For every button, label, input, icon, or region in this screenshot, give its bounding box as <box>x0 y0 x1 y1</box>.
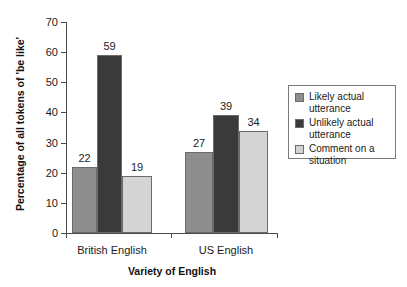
bar <box>213 115 239 233</box>
bar <box>97 55 122 233</box>
y-tick-label: 40 <box>20 107 58 118</box>
y-tick-label: 0 <box>20 228 58 239</box>
legend-item: Comment on a situation <box>295 143 391 166</box>
chart-figure: Percentage of all tokens of 'be like' 01… <box>0 0 407 287</box>
y-axis-line <box>66 22 67 234</box>
bar-value-label: 34 <box>227 117 280 128</box>
y-tick-label: 30 <box>20 138 58 149</box>
bar <box>185 152 213 233</box>
x-tick-mark <box>171 233 172 238</box>
y-tick-label: 20 <box>20 168 58 179</box>
chart-legend: Likely actual utteranceUnlikely actual u… <box>288 85 396 159</box>
x-tick-mark <box>277 233 278 238</box>
bar-value-label: 59 <box>85 41 134 52</box>
bar-value-label: 39 <box>201 101 251 112</box>
bar <box>122 176 152 233</box>
x-axis-title: Variety of English <box>66 265 278 277</box>
legend-label: Unlikely actual utterance <box>309 117 391 140</box>
bar <box>72 167 97 233</box>
x-axis-category-label: British English <box>52 244 172 256</box>
y-tick-label: 50 <box>20 77 58 88</box>
legend-item: Unlikely actual utterance <box>295 117 391 140</box>
bar <box>239 131 268 233</box>
legend-swatch-icon <box>295 93 304 102</box>
x-axis-line <box>66 233 278 234</box>
x-axis-category-label: US English <box>166 244 286 256</box>
y-tick-label: 70 <box>20 17 58 28</box>
y-tick-label: 60 <box>20 47 58 58</box>
plot-area: Percentage of all tokens of 'be like' 01… <box>0 0 407 287</box>
legend-swatch-icon <box>295 145 304 154</box>
legend-label: Comment on a situation <box>309 143 391 166</box>
bar-value-label: 19 <box>110 162 164 173</box>
legend-label: Likely actual utterance <box>309 91 391 114</box>
legend-swatch-icon <box>295 119 304 128</box>
legend-item: Likely actual utterance <box>295 91 391 114</box>
x-tick-mark <box>66 233 67 238</box>
y-tick-label: 10 <box>20 198 58 209</box>
